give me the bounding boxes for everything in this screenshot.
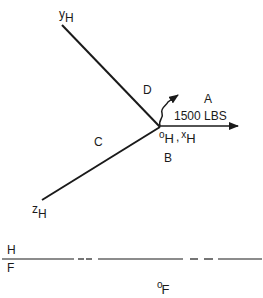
region-label-c: C xyxy=(94,135,103,149)
coordinate-diagram: yH zH D A C B 1500 LBS oH,xH H F oF xyxy=(0,0,263,298)
interface-label-f: F xyxy=(7,261,14,275)
interface-label-h: H xyxy=(7,243,16,257)
region-label-a: A xyxy=(204,92,212,106)
force-label: 1500 LBS xyxy=(174,109,227,123)
y-axis-line xyxy=(62,25,160,127)
y-axis-label: yH xyxy=(59,7,74,25)
region-label-d: D xyxy=(143,83,152,97)
region-label-b: B xyxy=(164,151,172,165)
frame-f-origin-label: oF xyxy=(157,279,170,297)
origin-x-label: oH,xH xyxy=(159,129,196,146)
z-axis-label: zH xyxy=(32,202,47,221)
